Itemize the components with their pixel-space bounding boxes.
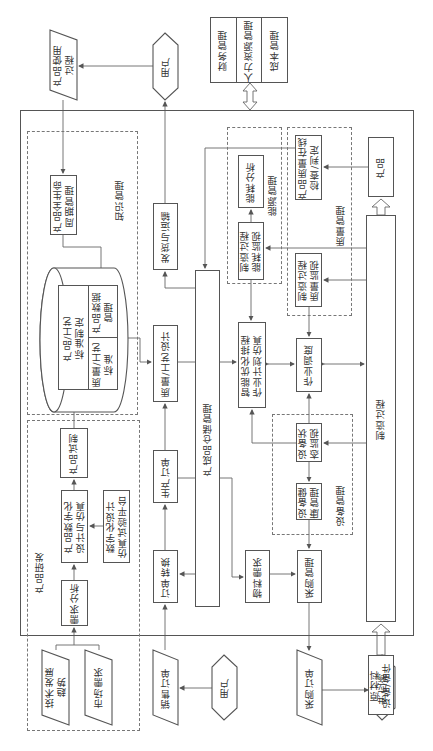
quality-standard-cell[interactable]: 质量/工艺 标准 xyxy=(89,338,117,389)
equipment-health-label: 设备健 康管理 xyxy=(297,486,321,518)
plm-box[interactable]: 产品全生命 周期管理 xyxy=(50,175,77,235)
standards-title[interactable]: 产品/工艺 标准制定 xyxy=(59,286,89,389)
standards-table: 产品/工艺 标准制定 产品数据 管理 质量/工艺 标准 xyxy=(58,285,118,390)
energy-monitor-box[interactable]: 制造过程 能耗监视 xyxy=(238,222,264,280)
quality-design-label: 质量/工艺设计 xyxy=(160,330,172,397)
equipment-management-label: 设备管理 xyxy=(334,480,348,530)
order-conversion-label: 订单转换 xyxy=(160,556,172,598)
quality-monitor-box[interactable]: 制造过程 质量监视 xyxy=(295,253,322,307)
dispatch-box[interactable]: 作业调度 xyxy=(296,338,322,392)
purchase-order[interactable]: 采购订单 xyxy=(297,655,322,720)
quality-label-text: 质量管理 xyxy=(335,204,347,246)
product-usage-process[interactable]: 产品使用 过程 xyxy=(50,30,77,100)
equipment-status-label: 设备状 态监视 xyxy=(297,427,321,459)
product-trial-box[interactable]: 产品试制 xyxy=(60,428,88,478)
hr-label: 人力资源管理 xyxy=(243,19,255,82)
user-top-label: 用户 xyxy=(160,56,172,77)
hr-management[interactable]: 人力资源管理 xyxy=(237,18,263,82)
tech-trend-label: 技术发展 趋势 xyxy=(44,666,68,708)
product-trial-label: 产品试制 xyxy=(68,432,80,474)
product-usage-label: 产品使用 过程 xyxy=(52,44,76,86)
knowledge-management-label: 知识管理 xyxy=(112,170,128,230)
cost-management[interactable]: 成本管理 xyxy=(262,18,287,82)
equipment-label-text: 设备管理 xyxy=(335,484,347,526)
manufacturing-process-label: 制造过程 xyxy=(375,398,387,440)
manufacturing-process-box[interactable]: 制造过程 xyxy=(366,215,396,622)
shipping-label: 发货与运输 xyxy=(160,210,172,263)
enterprise-management-box: 财务管理 人力资源管理 成本管理 xyxy=(210,17,288,83)
quality-check-box[interactable]: 产品质量在线 检查/判定 xyxy=(295,135,322,200)
purchase-management-box[interactable]: 采购管理 xyxy=(297,550,322,603)
material-requirement-label: 物料需求 xyxy=(252,556,264,598)
energy-analysis-box[interactable]: 能耗分析 xyxy=(238,155,264,208)
quality-check-label: 产品质量在线 检查/判定 xyxy=(297,136,321,199)
digital-design-label: 产品数字化 设计与仿真 xyxy=(63,500,87,553)
scheduling-sim-label: 智能优化排程 作业计划仿真 xyxy=(240,334,264,397)
knowledge-label-text: 知识管理 xyxy=(114,179,126,221)
product-label: 产品 xyxy=(375,157,387,178)
energy-monitor-label: 制造过程 能耗监视 xyxy=(239,230,263,272)
product-box[interactable]: 产品 xyxy=(368,137,394,197)
sales-order-label: 销售订单 xyxy=(160,667,172,709)
product-rnd-label-text: 产品研发 xyxy=(34,551,46,593)
dispatch-label: 作业调度 xyxy=(303,344,315,386)
requirement-analysis-box[interactable]: 需求分析 xyxy=(61,580,88,626)
simulation-platform-label: 数字化设计 仿真试验平台 xyxy=(105,495,129,558)
purchase-management-label: 采购管理 xyxy=(304,556,316,598)
quality-monitor-label: 制造过程 质量监视 xyxy=(297,259,321,301)
warehouse-box[interactable]: 产成品仓储管理 xyxy=(195,270,220,607)
user-bottom-label: 用户 xyxy=(219,677,231,698)
energy-management-label: 能源管理 xyxy=(266,170,280,220)
simulation-platform-box[interactable]: 数字化设计 仿真试验平台 xyxy=(103,490,130,563)
market-demand-label: 市场需求 xyxy=(93,666,105,708)
product-rnd-label: 产品研发 xyxy=(32,550,48,594)
equipment-health-box[interactable]: 设备健 康管理 xyxy=(296,483,322,520)
energy-label-text: 能源管理 xyxy=(267,174,279,216)
order-conversion-box[interactable]: 订单转换 xyxy=(153,550,178,603)
production-order-label: 生产订单 xyxy=(160,456,172,498)
pdm-text: 产品数据 管理 xyxy=(91,291,115,333)
quality-management-label: 质量管理 xyxy=(334,200,348,250)
purchase-order-label: 采购订单 xyxy=(304,667,316,709)
requirement-analysis-label: 需求分析 xyxy=(69,582,81,624)
supplier[interactable]: 供应商 xyxy=(370,655,395,720)
scheduling-sim-box[interactable]: 智能优化排程 作业计划仿真 xyxy=(238,322,266,408)
market-demand-input[interactable]: 市场需求 xyxy=(85,652,112,722)
standards-title-text: 产品/工艺 标准制定 xyxy=(62,315,86,361)
material-requirement-box[interactable]: 物料需求 xyxy=(245,550,270,603)
plm-label: 产品全生命 周期管理 xyxy=(52,179,76,232)
production-order-box[interactable]: 生产订单 xyxy=(153,450,178,503)
pdm-cell[interactable]: 产品数据 管理 xyxy=(89,286,117,338)
cost-label: 成本管理 xyxy=(269,29,281,71)
digital-design-box[interactable]: 产品数字化 设计与仿真 xyxy=(61,490,88,563)
shipping-box[interactable]: 发货与运输 xyxy=(153,203,178,270)
quality-design-box[interactable]: 质量/工艺设计 xyxy=(153,325,178,402)
energy-analysis-label: 能耗分析 xyxy=(245,161,257,203)
warehouse-label: 产成品仓储管理 xyxy=(202,402,214,476)
sales-order[interactable]: 销售订单 xyxy=(153,655,178,720)
user-bottom[interactable]: 用户 xyxy=(212,655,237,720)
supplier-label: 供应商 xyxy=(377,672,389,704)
equipment-status-box[interactable]: 设备状 态监视 xyxy=(296,423,322,462)
user-top[interactable]: 用户 xyxy=(153,33,178,100)
finance-management[interactable]: 财务管理 xyxy=(211,18,237,82)
tech-trend-input[interactable]: 技术发展 趋势 xyxy=(42,652,69,722)
finance-label: 财务管理 xyxy=(217,29,229,71)
quality-standard-text: 质量/工艺 标准 xyxy=(91,341,115,387)
